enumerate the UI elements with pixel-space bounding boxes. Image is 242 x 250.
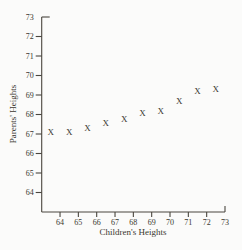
- y-tick-label: 72: [26, 32, 34, 41]
- y-tick-label: 70: [26, 71, 34, 80]
- data-point-marker: X: [48, 127, 55, 137]
- scatter-plot: 6465666768697071727364656667686970717273…: [0, 0, 242, 250]
- x-tick-label: 69: [148, 218, 156, 227]
- data-point-marker: X: [158, 106, 165, 116]
- data-point-marker: X: [139, 108, 146, 118]
- data-point-marker: X: [121, 114, 128, 124]
- x-tick-label: 65: [74, 218, 82, 227]
- scatter-plot-figure: 6465666768697071727364656667686970717273…: [0, 0, 242, 250]
- y-tick-label: 73: [26, 13, 34, 22]
- y-tick-label: 67: [26, 130, 34, 139]
- y-tick-label: 69: [26, 91, 34, 100]
- data-point-marker: X: [84, 123, 91, 133]
- data-point-marker: X: [194, 86, 201, 96]
- data-points: XXXXXXXXXX: [48, 84, 220, 137]
- y-tick-label: 66: [26, 149, 34, 158]
- y-tick-label: 68: [26, 110, 34, 119]
- x-tick-label: 64: [56, 218, 64, 227]
- data-point-marker: X: [66, 127, 73, 137]
- y-tick-label: 71: [26, 52, 34, 61]
- axes: [42, 17, 225, 212]
- y-axis-label: Parents' Heights: [8, 84, 18, 143]
- x-tick-label: 68: [129, 218, 137, 227]
- data-point-marker: X: [176, 96, 183, 106]
- data-point-marker: X: [103, 118, 110, 128]
- x-tick-label: 72: [203, 218, 211, 227]
- x-tick-label: 71: [184, 218, 192, 227]
- x-tick-label: 70: [166, 218, 174, 227]
- y-tick-label: 64: [26, 188, 34, 197]
- x-tick-label: 66: [93, 218, 101, 227]
- y-tick-label: 65: [26, 169, 34, 178]
- x-axis-label: Children's Heights: [100, 227, 167, 237]
- x-tick-label: 73: [221, 218, 229, 227]
- x-tick-label: 67: [111, 218, 119, 227]
- data-point-marker: X: [213, 84, 220, 94]
